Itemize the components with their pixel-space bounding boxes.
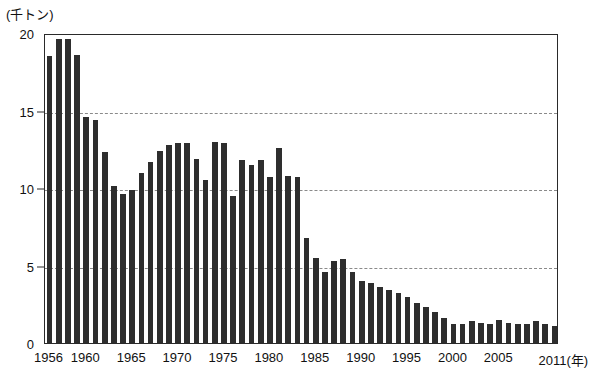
bar bbox=[249, 165, 255, 343]
bar bbox=[368, 283, 374, 343]
bar bbox=[258, 160, 264, 343]
bar bbox=[120, 194, 126, 343]
bar bbox=[184, 143, 190, 343]
x-tick-label-2000: 2000 bbox=[438, 350, 467, 365]
bar bbox=[533, 321, 539, 343]
bar bbox=[267, 177, 273, 343]
bar bbox=[423, 307, 429, 343]
bar bbox=[377, 287, 383, 343]
bar-series bbox=[45, 35, 557, 343]
bar bbox=[74, 55, 80, 343]
bar bbox=[212, 142, 218, 344]
x-tick-label-2011: 2011(年) bbox=[539, 350, 589, 369]
y-tick-label-5: 5 bbox=[27, 259, 34, 274]
bar bbox=[194, 159, 200, 343]
bar bbox=[405, 297, 411, 344]
bar bbox=[487, 324, 493, 343]
x-tick-label-1965: 1965 bbox=[117, 350, 146, 365]
bar bbox=[396, 293, 402, 343]
bar bbox=[47, 56, 53, 343]
bar bbox=[386, 290, 392, 343]
y-tick-mark-15 bbox=[37, 111, 44, 112]
bar bbox=[203, 180, 209, 343]
x-axis: 1956196019651970197519801985199019952000… bbox=[44, 348, 558, 374]
x-tick-label-2005: 2005 bbox=[484, 350, 513, 365]
bar bbox=[331, 261, 337, 343]
bar bbox=[295, 177, 301, 343]
bar bbox=[157, 151, 163, 343]
y-tick-label-0: 0 bbox=[27, 337, 34, 352]
bar bbox=[221, 143, 227, 343]
bar bbox=[478, 323, 484, 343]
bar bbox=[111, 186, 117, 343]
bar bbox=[239, 160, 245, 343]
y-tick-label-20: 20 bbox=[20, 27, 34, 42]
bar bbox=[93, 120, 99, 343]
x-tick-label-1985: 1985 bbox=[300, 350, 329, 365]
bar bbox=[506, 323, 512, 343]
bar bbox=[460, 324, 466, 343]
bar bbox=[359, 281, 365, 343]
bar bbox=[524, 324, 530, 343]
x-tick-label-1975: 1975 bbox=[209, 350, 238, 365]
bar bbox=[65, 39, 71, 343]
bar bbox=[129, 190, 135, 343]
y-tick-mark-10 bbox=[37, 189, 44, 190]
bar bbox=[432, 312, 438, 343]
bar bbox=[313, 258, 319, 343]
bar bbox=[83, 117, 89, 343]
bar bbox=[102, 152, 108, 343]
x-tick-label-1980: 1980 bbox=[254, 350, 283, 365]
x-tick-label-1956: 1956 bbox=[34, 350, 63, 365]
bar bbox=[230, 196, 236, 343]
x-tick-label-1995: 1995 bbox=[392, 350, 421, 365]
bar bbox=[139, 173, 145, 344]
bar bbox=[322, 272, 328, 343]
bar bbox=[276, 148, 282, 343]
bar bbox=[496, 320, 502, 343]
bar bbox=[451, 324, 457, 343]
y-tick-mark-5 bbox=[37, 266, 44, 267]
bar bbox=[56, 39, 62, 343]
y-tick-label-10: 10 bbox=[20, 182, 34, 197]
bar bbox=[552, 326, 558, 343]
bar bbox=[414, 303, 420, 343]
x-tick-label-1990: 1990 bbox=[346, 350, 375, 365]
bar bbox=[469, 321, 475, 343]
bar bbox=[166, 145, 172, 343]
plot-area bbox=[44, 34, 558, 344]
bar bbox=[304, 238, 310, 343]
y-axis: 05101520 bbox=[0, 34, 44, 344]
y-tick-label-15: 15 bbox=[20, 104, 34, 119]
x-tick-label-1970: 1970 bbox=[163, 350, 192, 365]
bar bbox=[441, 318, 447, 343]
bar bbox=[148, 162, 154, 343]
y-axis-unit-label: (千トン) bbox=[6, 4, 54, 23]
bar bbox=[542, 324, 548, 343]
bar bbox=[285, 176, 291, 343]
bar-chart: (千トン) 05101520 1956196019651970197519801… bbox=[0, 0, 604, 376]
bar bbox=[350, 272, 356, 343]
bar bbox=[175, 143, 181, 343]
bar bbox=[340, 259, 346, 343]
bar bbox=[515, 324, 521, 343]
x-tick-label-1960: 1960 bbox=[71, 350, 100, 365]
